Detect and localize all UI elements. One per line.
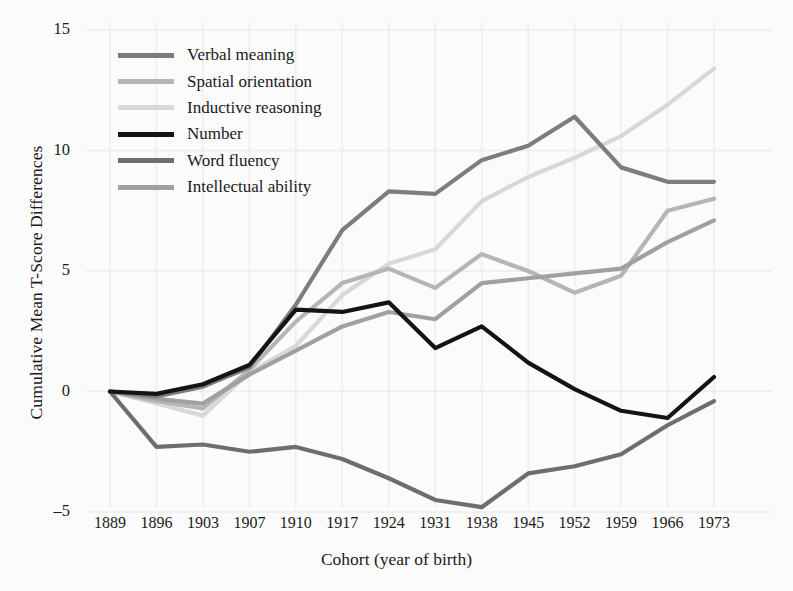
y-axis-tick-label: 15 — [24, 19, 70, 39]
legend-label: Number — [187, 124, 243, 144]
legend-color-swatch — [118, 132, 174, 137]
legend-color-swatch — [118, 185, 174, 190]
legend-item: Intellectual ability — [118, 174, 322, 200]
y-axis-tick-label: 10 — [24, 140, 70, 160]
legend-color-swatch — [118, 105, 174, 110]
legend-item: Number — [118, 121, 322, 147]
legend-label: Word fluency — [187, 151, 280, 171]
legend-label: Verbal meaning — [187, 45, 294, 65]
legend-item: Word fluency — [118, 148, 322, 174]
y-axis-title: Cumulative Mean T-Score Differences — [26, 33, 47, 533]
legend-color-swatch — [118, 79, 174, 84]
y-axis-tick-label: –5 — [24, 501, 70, 521]
y-axis-tick-label: 0 — [24, 381, 70, 401]
series-line — [110, 220, 714, 403]
x-axis-tick-label: 1973 — [684, 514, 744, 532]
chart-figure: Cumulative Mean T-Score Differences Coho… — [0, 0, 793, 591]
series-line — [110, 199, 714, 409]
legend-item: Spatial orientation — [118, 68, 322, 94]
y-axis-tick-label: 5 — [24, 260, 70, 280]
legend-label: Inductive reasoning — [187, 98, 322, 118]
legend-item: Inductive reasoning — [118, 95, 322, 121]
legend-item: Verbal meaning — [118, 42, 322, 68]
chart-legend: Verbal meaningSpatial orientationInducti… — [118, 42, 322, 200]
legend-label: Intellectual ability — [187, 177, 311, 197]
legend-label: Spatial orientation — [187, 72, 312, 92]
legend-color-swatch — [118, 158, 174, 163]
series-line — [110, 302, 714, 418]
legend-color-swatch — [118, 53, 174, 58]
x-axis-title: Cohort (year of birth) — [0, 549, 793, 570]
